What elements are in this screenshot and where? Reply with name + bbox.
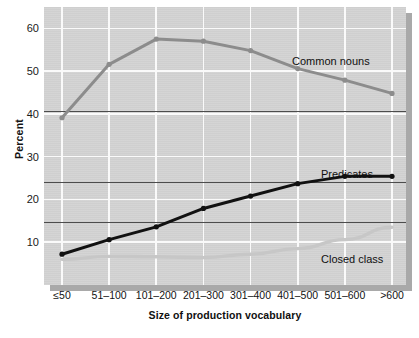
- y-tick-label: 40: [13, 108, 39, 120]
- x-tick-label: 401–500: [277, 289, 318, 301]
- x-tick-label: ≤50: [53, 289, 70, 301]
- series-line-predicates: [62, 176, 392, 254]
- data-point: [342, 78, 347, 83]
- x-tick-label: >600: [380, 289, 404, 301]
- x-tick-label: 51–100: [92, 289, 127, 301]
- x-tick-label: 501–600: [324, 289, 365, 301]
- data-point: [389, 91, 394, 96]
- predicates-label: Predicates: [321, 168, 373, 180]
- x-tick-label: 301–400: [230, 289, 271, 301]
- series-line-common-nouns: [62, 39, 392, 118]
- data-point: [201, 206, 206, 211]
- y-axis-tick-labels: 102030405060: [0, 0, 39, 338]
- x-axis-title: Size of production vocabulary: [44, 309, 406, 321]
- y-tick-label: 30: [13, 151, 39, 163]
- data-point: [295, 181, 300, 186]
- data-point: [59, 252, 64, 257]
- data-point: [389, 174, 394, 179]
- y-tick-label: 20: [13, 193, 39, 205]
- series-plot: [44, 7, 406, 285]
- y-tick-label: 60: [13, 22, 39, 34]
- series-markers-common-nouns: [59, 36, 394, 120]
- x-tick-label: 201–300: [183, 289, 224, 301]
- data-point: [154, 224, 159, 229]
- data-point: [248, 48, 253, 53]
- x-axis-tick-labels: ≤5051–100101–200201–300301–400401–500501…: [44, 289, 406, 305]
- data-point: [154, 36, 159, 41]
- chart-figure: Percent 102030405060 Common nounsPredica…: [0, 0, 419, 338]
- series-markers-predicates: [59, 174, 394, 257]
- y-tick-label: 10: [13, 236, 39, 248]
- closed-class-label: Closed class: [321, 253, 383, 265]
- data-point: [248, 193, 253, 198]
- x-tick-label: 101–200: [136, 289, 177, 301]
- data-point: [201, 39, 206, 44]
- data-point: [107, 237, 112, 242]
- common-nouns-label: Common nouns: [292, 55, 370, 67]
- data-point: [59, 115, 64, 120]
- plot-area: Common nounsPredicatesClosed class: [44, 7, 406, 285]
- y-tick-label: 50: [13, 65, 39, 77]
- data-point: [107, 62, 112, 67]
